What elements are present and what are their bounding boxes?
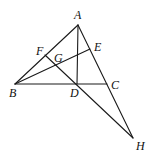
segment-fh bbox=[45, 55, 133, 138]
label-point-e: E bbox=[93, 40, 102, 54]
segment-ah bbox=[78, 25, 133, 138]
label-point-c: C bbox=[111, 78, 120, 92]
segment-be bbox=[15, 49, 90, 84]
label-point-g: G bbox=[54, 51, 63, 65]
label-point-d: D bbox=[69, 86, 79, 100]
label-point-f: F bbox=[35, 44, 44, 58]
segment-ab bbox=[15, 25, 78, 84]
geometry-figure: ABCDEFGH bbox=[0, 0, 154, 160]
label-point-b: B bbox=[9, 86, 17, 100]
label-point-a: A bbox=[73, 8, 82, 22]
label-point-h: H bbox=[135, 139, 146, 153]
